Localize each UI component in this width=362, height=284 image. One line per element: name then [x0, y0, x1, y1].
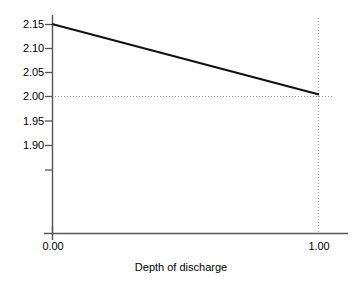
- x-tick-label-0.00: 0.00: [30, 240, 76, 252]
- y-axis-ticks: [45, 25, 52, 171]
- y-tick-label-2.15: 2.15: [0, 18, 44, 30]
- y-tick-label-1.90: 1.90: [0, 139, 44, 151]
- y-tick-label-2.00: 2.00: [0, 90, 44, 102]
- chart-container: 2.15 2.10 2.05 2.00 1.95 1.90 0.00 1.00 …: [0, 0, 362, 284]
- x-axis-title: Depth of discharge: [0, 261, 362, 274]
- data-series-line: [52, 24, 319, 95]
- x-tick-label-1.00: 1.00: [296, 240, 342, 252]
- y-tick-label-1.95: 1.95: [0, 115, 44, 127]
- y-tick-label-2.05: 2.05: [0, 66, 44, 78]
- y-tick-label-2.10: 2.10: [0, 42, 44, 54]
